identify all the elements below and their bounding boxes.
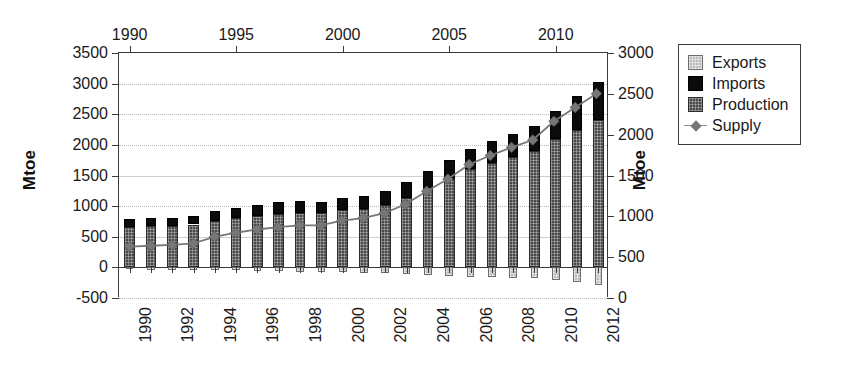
y-tick-left [112,237,119,238]
supply-marker [337,215,347,225]
supply-marker [252,224,262,234]
x-tick-label-bottom: 2000 [350,307,368,343]
supply-marker [315,220,325,230]
x-tick-label-top: 1995 [218,26,254,44]
production-swatch [688,97,703,112]
x-tick-label-bottom: 1990 [137,307,155,343]
x-tick-label-bottom: 1996 [264,307,282,343]
plot-area: 3500300025002000150010005000-50030002500… [118,52,608,297]
y-tick-right [607,298,614,299]
supply-marker [591,88,601,98]
y-tick-right [607,53,614,54]
x-tick-bottom [556,267,557,273]
x-tick-top [449,46,450,53]
exports-swatch [688,55,703,70]
chart-legend: ExportsImportsProductionSupply [678,44,801,145]
x-tick-bottom [343,267,344,273]
y-tick-label-right: 2500 [618,86,654,102]
y-tick-left [112,206,119,207]
x-tick-label-top: 2005 [431,26,467,44]
y-tick-label-left: 3000 [72,76,108,92]
x-tick-label-bottom: 1994 [222,307,240,343]
x-tick-bottom [428,267,429,273]
x-tick-label-bottom: 2006 [478,307,496,343]
legend-item-supply[interactable]: Supply [688,115,789,136]
legend-item-label: Supply [712,117,761,135]
supply-marker [421,186,431,196]
y-tick-label-left: 3500 [72,45,108,61]
supply-marker [231,228,241,238]
supply-marker [273,222,283,232]
legend-diamond-marker [690,120,701,131]
x-tick-label-bottom: 2010 [563,307,581,343]
supply-marker [379,208,389,218]
legend-item-imports[interactable]: Imports [688,73,789,94]
y-tick-label-right: 0 [618,290,627,306]
y-tick-label-right: 2000 [618,127,654,143]
legend-item-exports[interactable]: Exports [688,52,789,73]
y-tick-label-left: -500 [76,290,108,306]
imports-swatch [688,76,703,91]
x-tick-label-bottom: 1992 [179,307,197,343]
x-tick-bottom [215,267,216,273]
legend-item-production[interactable]: Production [688,94,789,115]
x-tick-label-top: 1990 [112,26,148,44]
chart-figure: Mtoe Mtoe 3500300025002000150010005000-5… [0,0,852,367]
y-tick-label-left: 2500 [72,106,108,122]
x-tick-top [130,46,131,53]
gridline--500 [119,298,607,299]
x-tick-bottom [385,267,386,273]
y-tick-left [112,114,119,115]
x-tick-bottom [534,267,535,273]
x-tick-top [343,46,344,53]
x-tick-bottom [194,267,195,273]
y-axis-title-left: Mtoe [20,134,40,206]
x-tick-bottom [407,267,408,273]
y-tick-label-left: 2000 [72,137,108,153]
x-tick-bottom [257,267,258,273]
legend-item-label: Exports [712,54,766,72]
x-tick-label-bottom: 1998 [307,307,325,343]
x-tick-bottom [300,267,301,273]
supply-marker [124,241,134,251]
x-tick-bottom [172,267,173,273]
x-tick-bottom [513,267,514,273]
y-tick-left [112,298,119,299]
y-tick-right [607,216,614,217]
supply-marker [188,238,198,248]
y-tick-left [112,84,119,85]
x-tick-bottom [471,267,472,273]
supply-marker [358,213,368,223]
supply-marker [400,199,410,209]
x-tick-bottom [279,267,280,273]
x-tick-bottom [492,267,493,273]
y-tick-label-right: 3000 [618,45,654,61]
supply-marker [146,241,156,251]
supply-marker [464,159,474,169]
y-tick-right [607,176,614,177]
y-tick-left [112,53,119,54]
supply-marker [485,150,495,160]
y-tick-label-left: 500 [81,229,108,245]
y-tick-label-right: 1000 [618,208,654,224]
y-tick-right [607,135,614,136]
x-tick-bottom [151,267,152,273]
legend-item-label: Imports [712,75,765,93]
x-tick-label-bottom: 2012 [605,307,623,343]
supply-marker [506,142,516,152]
x-tick-bottom [364,267,365,273]
x-tick-bottom [598,267,599,273]
supply-line-swatch [688,118,703,133]
y-tick-right [607,257,614,258]
supply-marker [167,240,177,250]
y-tick-right [607,94,614,95]
supply-marker [570,102,580,112]
x-tick-top [556,46,557,53]
y-tick-left [112,267,119,268]
supply-marker [209,232,219,242]
y-tick-label-left: 1000 [72,198,108,214]
y-tick-left [112,176,119,177]
x-tick-label-bottom: 2002 [392,307,410,343]
x-tick-label-top: 2010 [538,26,574,44]
x-tick-label-top: 2000 [325,26,361,44]
